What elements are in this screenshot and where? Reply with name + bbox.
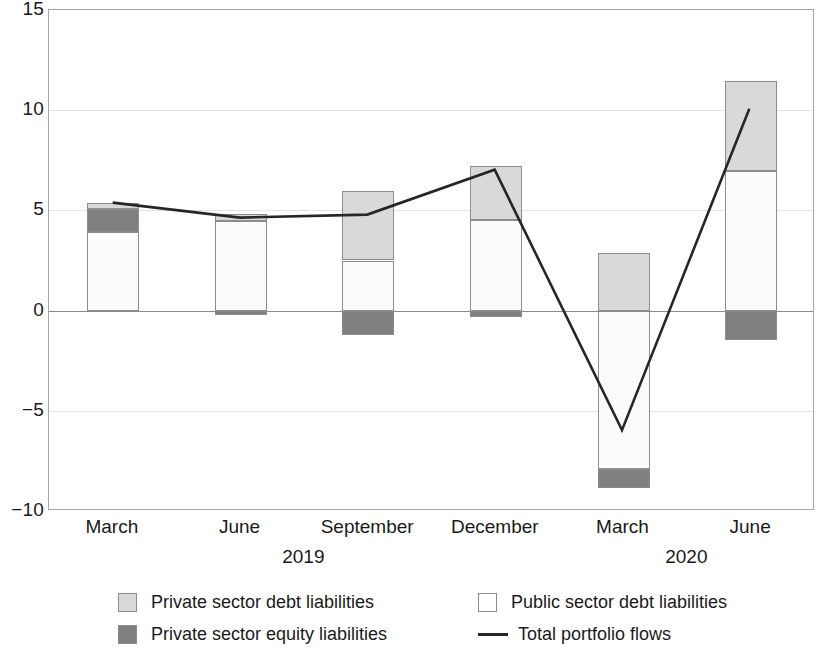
zero-axis-line <box>49 311 813 312</box>
chart-legend: Private sector debt liabilitiesPublic se… <box>118 592 758 652</box>
x-axis-tick-label: June <box>680 516 820 538</box>
legend-item[interactable]: Private sector debt liabilities <box>118 592 374 612</box>
legend-item-label: Public sector debt liabilities <box>511 592 727 612</box>
legend-item-label: Total portfolio flows <box>518 624 671 644</box>
bar-segment-private-debt[interactable] <box>470 166 522 220</box>
bar-segment-private-equity[interactable] <box>470 311 522 317</box>
portfolio-flows-chart: 151050−5−10 MarchJuneSeptemberDecemberMa… <box>0 0 822 658</box>
bar-segment-private-equity[interactable] <box>342 311 394 335</box>
line-path-total-portfolio-flows <box>113 109 750 430</box>
x-axis-tick-label: March <box>42 516 182 538</box>
x-axis-year-label: 2020 <box>626 546 746 568</box>
bar-segment-private-debt[interactable] <box>87 203 139 209</box>
total-portfolio-flows-line <box>49 10 813 509</box>
legend-item[interactable]: Total portfolio flows <box>478 624 671 644</box>
y-axis: 151050−5−10 <box>0 0 44 520</box>
y-axis-tick-label: 15 <box>0 0 44 18</box>
bar-segment-private-equity[interactable] <box>87 209 139 232</box>
y-axis-tick-label: −5 <box>0 400 44 419</box>
plot-area <box>48 9 814 510</box>
gridline <box>49 110 813 111</box>
bar-segment-private-equity[interactable] <box>725 311 777 340</box>
y-axis-tick-label: 10 <box>0 99 44 118</box>
x-axis-tick-label: December <box>425 516 565 538</box>
legend-item-label: Private sector debt liabilities <box>151 592 374 612</box>
x-axis-tick-label: March <box>553 516 693 538</box>
bar-segment-private-equity[interactable] <box>598 469 650 488</box>
legend-swatch-private-debt <box>118 593 137 612</box>
bar-segment-private-debt[interactable] <box>598 253 650 310</box>
bar-segment-public-debt[interactable] <box>87 232 139 310</box>
gridline <box>49 411 813 412</box>
bar-segment-public-debt[interactable] <box>342 261 394 311</box>
legend-swatch-public-debt <box>478 593 497 612</box>
legend-item-label: Private sector equity liabilities <box>151 624 387 644</box>
x-axis-tick-label: June <box>170 516 310 538</box>
gridline <box>49 210 813 211</box>
bar-segment-public-debt[interactable] <box>598 311 650 469</box>
legend-item[interactable]: Private sector equity liabilities <box>118 624 387 644</box>
x-axis-tick-label: September <box>297 516 437 538</box>
legend-line-marker-total-flows <box>478 625 508 644</box>
y-axis-tick-label: 0 <box>0 300 44 319</box>
bar-segment-public-debt[interactable] <box>470 220 522 310</box>
legend-swatch-private-equity <box>118 625 137 644</box>
bar-segment-public-debt[interactable] <box>725 171 777 310</box>
y-axis-tick-label: 5 <box>0 199 44 218</box>
bar-segment-private-debt[interactable] <box>342 191 394 260</box>
legend-item[interactable]: Public sector debt liabilities <box>478 592 727 612</box>
bar-segment-private-debt[interactable] <box>215 214 267 221</box>
bar-segment-private-equity[interactable] <box>215 311 267 315</box>
bar-segment-private-debt[interactable] <box>725 81 777 171</box>
bar-segment-public-debt[interactable] <box>215 221 267 310</box>
y-axis-tick-label: −10 <box>0 500 44 519</box>
x-axis-year-label: 2019 <box>243 546 363 568</box>
